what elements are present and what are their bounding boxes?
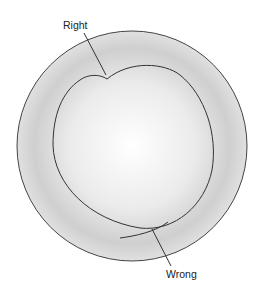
label-right: Right — [63, 19, 88, 31]
label-wrong: Wrong — [166, 268, 197, 280]
diagram-canvas — [0, 0, 266, 291]
